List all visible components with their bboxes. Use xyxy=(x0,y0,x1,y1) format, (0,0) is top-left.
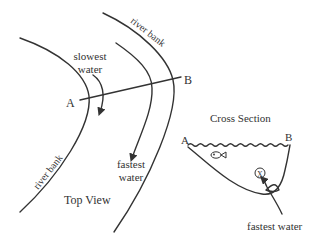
transect-line-a-b xyxy=(80,77,181,100)
cross-section-title: Cross Section xyxy=(210,112,271,124)
fastest-water-pointer-arrow xyxy=(263,179,282,214)
river-bank-bottom-label: river bank xyxy=(31,152,65,191)
river-diagram: A B slowest water fastest water river ba… xyxy=(0,0,313,243)
point-a-label: A xyxy=(66,96,75,110)
fastest-point-marker-icon: X xyxy=(255,168,265,179)
fastest-water-label-line1: fastest xyxy=(117,158,145,170)
slowest-water-label-line2: water xyxy=(78,63,103,75)
fastest-water-arrow xyxy=(116,43,152,158)
cross-section-fastest-water-label: fastest water xyxy=(247,220,303,232)
cross-section-point-a: A xyxy=(181,134,189,146)
water-surface-wave xyxy=(188,144,288,147)
slowest-water-arrow xyxy=(93,75,103,112)
fish-icon xyxy=(211,152,226,158)
fastest-water-label-line2: water xyxy=(119,171,144,183)
svg-text:X: X xyxy=(257,170,263,179)
channel-bed xyxy=(188,145,290,194)
top-view: A B slowest water fastest water river ba… xyxy=(20,13,192,232)
outer-river-bank-line xyxy=(103,13,174,232)
top-view-title: Top View xyxy=(64,193,111,207)
cross-section: Cross Section A B X fastest water xyxy=(181,112,303,232)
cross-section-point-b: B xyxy=(285,131,292,143)
slowest-water-label-line1: slowest xyxy=(74,50,107,62)
point-b-label: B xyxy=(184,73,192,87)
